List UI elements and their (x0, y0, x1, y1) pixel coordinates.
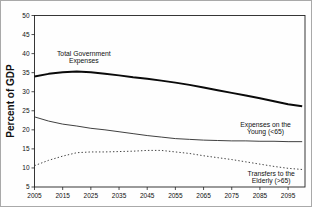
x-tick-label: 2075 (225, 192, 240, 199)
series-line-total-government-expenses (35, 72, 303, 107)
x-tick-label: 2055 (168, 192, 183, 199)
y-tick-label: 10 (22, 164, 30, 171)
y-tick-label: 5 (26, 183, 30, 190)
x-axis: 2005201520252035204520552065207520852095 (27, 187, 295, 199)
x-tick-label: 2045 (140, 192, 155, 199)
x-tick-label: 2085 (253, 192, 268, 199)
x-tick-label: 2035 (112, 192, 127, 199)
y-tick-label: 35 (22, 69, 30, 76)
x-tick-label: 2005 (27, 192, 42, 199)
x-tick-label: 2025 (84, 192, 99, 199)
y-tick-label: 20 (22, 126, 30, 133)
y-axis: 5101520253035404550 (22, 12, 34, 191)
figure: Percent of GDP 5101520253035404550200520… (0, 0, 312, 207)
x-tick-label: 2095 (281, 192, 296, 199)
series-label: Total GovernmentExpenses (57, 50, 111, 65)
series-label: Expenses on theYoung (<65) (240, 121, 291, 137)
y-tick-label: 25 (22, 107, 30, 114)
y-tick-label: 45 (22, 31, 30, 38)
series-label: Transfers to theElderly (>65) (248, 170, 296, 186)
y-tick-label: 40 (22, 50, 30, 57)
x-tick-label: 2015 (55, 192, 70, 199)
y-tick-label: 30 (22, 88, 30, 95)
series-line-transfers-to-the-elderly-65 (35, 150, 303, 169)
annotations: Total GovernmentExpensesExpenses on theY… (57, 50, 295, 186)
y-tick-label: 15 (22, 145, 30, 152)
x-tick-label: 2065 (196, 192, 211, 199)
line-chart: 5101520253035404550200520152025203520452… (1, 1, 311, 206)
y-tick-label: 50 (22, 12, 30, 19)
plot-box (35, 16, 306, 188)
